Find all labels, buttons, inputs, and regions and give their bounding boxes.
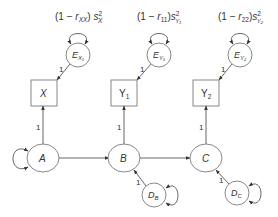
node-d-c: DC [225,181,249,205]
path-label-ey2-y2: 1 [221,65,226,74]
variance-loop-ex1 [69,34,86,45]
variance-loop-db [166,186,178,205]
node-x: X [31,80,57,106]
svg-text:C: C [202,153,210,164]
path-label-b-y1: 1 [117,123,122,132]
node-e-y2: EY₂ [228,43,252,67]
variance-label-ex1: (1 − rXX) s2X [55,10,103,24]
variance-loop-dc [249,184,261,203]
svg-text:A: A [38,153,46,164]
path-diagram: (1 − rXX) s2X (1 − r11)s2Y₁ (1 − r22)s2Y… [0,0,278,217]
node-c: C [190,144,222,172]
node-a: A [27,144,59,172]
node-e-x1: EX₁ [66,43,90,67]
node-d-b: DB [142,183,166,207]
node-y1: Y1 [111,80,137,106]
variance-loop-a [13,149,28,169]
svg-text:X: X [39,88,47,99]
svg-text:B: B [120,153,127,164]
node-b: B [108,144,140,172]
node-e-y1: EY₁ [147,43,171,67]
variance-loop-ey1 [150,34,167,45]
variance-label-ey2: (1 − r22)s2Y₂ [218,10,264,24]
path-label-c-y2: 1 [199,123,204,132]
path-label-ey1-y1: 1 [140,65,145,74]
path-label-a-x: 1 [36,123,41,132]
path-label-dc-c: 1 [219,176,224,185]
node-y2: Y2 [193,80,219,106]
path-label-db-b: 1 [136,178,141,187]
variance-loop-ey2 [231,34,248,45]
variance-label-ey1: (1 − r11)s2Y₁ [137,10,181,24]
path-label-ex1-x: 1 [59,65,64,74]
